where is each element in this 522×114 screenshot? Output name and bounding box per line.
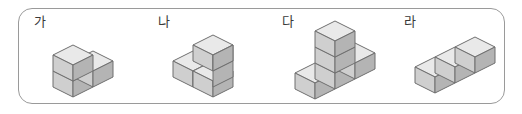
figure-da-drawing	[291, 17, 395, 105]
figure-panel: 가	[18, 8, 505, 104]
figure-na	[169, 25, 253, 105]
figure-ga	[47, 25, 131, 101]
figure-ra-drawing	[411, 33, 507, 105]
figure-ra	[411, 33, 507, 105]
figure-na-drawing	[169, 25, 253, 105]
figure-label-ra: 라	[404, 15, 416, 28]
figure-ga-drawing	[47, 25, 131, 101]
figure-label-ga: 가	[34, 15, 46, 28]
figure-da	[291, 17, 395, 105]
